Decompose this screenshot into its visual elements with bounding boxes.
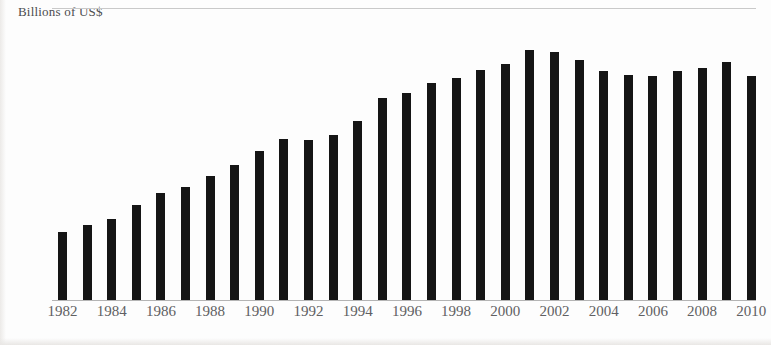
bar-2000 <box>501 64 510 301</box>
x-axis-tick-label-1998: 1998 <box>441 303 471 320</box>
bar-series <box>52 56 756 301</box>
bar-1998 <box>452 78 461 301</box>
bar-1995 <box>378 98 387 301</box>
page-edge-shadow-bottom <box>0 338 771 345</box>
bar-2007 <box>673 71 682 301</box>
bar-1990 <box>255 151 264 301</box>
bar-1989 <box>230 165 239 301</box>
gridline-10 <box>52 8 756 9</box>
bar-1983 <box>83 225 92 301</box>
x-axis-tick-label-1990: 1990 <box>244 303 274 320</box>
bar-2006 <box>648 76 657 301</box>
y-axis-title: Billions of US$ <box>18 4 103 20</box>
x-axis-tick-label-2000: 2000 <box>490 303 520 320</box>
x-axis-labels: 1982198419861988199019921994199619982000… <box>52 303 756 333</box>
bar-1985 <box>132 205 141 301</box>
bar-1993 <box>329 135 338 301</box>
bar-1984 <box>107 219 116 301</box>
bar-2005 <box>624 75 633 301</box>
x-axis-tick-label-1984: 1984 <box>97 303 127 320</box>
x-axis-tick-label-1996: 1996 <box>392 303 422 320</box>
bar-2008 <box>698 68 707 301</box>
x-axis-tick-label-1992: 1992 <box>294 303 324 320</box>
bar-2010 <box>747 76 756 301</box>
x-axis-tick-label-2010: 2010 <box>736 303 766 320</box>
x-axis-tick-label-1988: 1988 <box>195 303 225 320</box>
bar-1986 <box>156 193 165 301</box>
bar-2009 <box>722 62 731 301</box>
x-axis-tick-label-2002: 2002 <box>540 303 570 320</box>
bar-1997 <box>427 83 436 301</box>
x-axis-tick-label-1994: 1994 <box>343 303 373 320</box>
bar-2003 <box>575 60 584 301</box>
bar-1987 <box>181 187 190 301</box>
bar-2002 <box>550 52 559 301</box>
axis-baseline <box>52 300 756 301</box>
bar-1991 <box>279 139 288 301</box>
bar-1999 <box>476 70 485 301</box>
bar-chart: Billions of US$ 10203040 198219841986198… <box>0 0 771 345</box>
x-axis-tick-label-1986: 1986 <box>146 303 176 320</box>
plot-area: 10203040 <box>52 56 756 301</box>
bar-1994 <box>353 121 362 301</box>
x-axis-tick-label-2006: 2006 <box>638 303 668 320</box>
x-axis-tick-label-2008: 2008 <box>687 303 717 320</box>
x-axis-tick-label-2004: 2004 <box>589 303 619 320</box>
x-axis-tick-label-1982: 1982 <box>48 303 78 320</box>
bar-1992 <box>304 140 313 301</box>
bar-1996 <box>402 93 411 301</box>
bar-2004 <box>599 71 608 301</box>
bar-2001 <box>525 50 534 301</box>
bar-1982 <box>58 232 67 301</box>
bar-1988 <box>206 176 215 301</box>
page-edge-shadow-left <box>0 0 6 345</box>
